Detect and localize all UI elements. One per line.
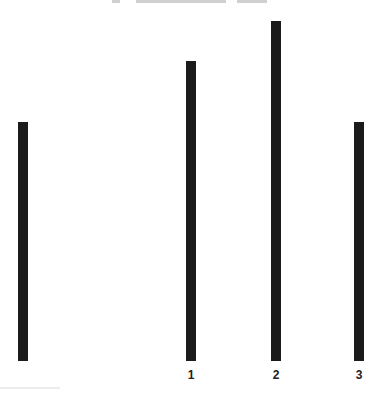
bar-1	[186, 61, 196, 361]
bar-3	[354, 122, 364, 361]
cropped-title-strip	[112, 0, 272, 4]
x-tick-label: 1	[181, 368, 201, 382]
x-tick-label: 3	[349, 368, 369, 382]
bottom-edge-shadow	[0, 387, 60, 389]
bar-2	[271, 21, 281, 361]
bar-unlabeled	[18, 122, 28, 361]
x-tick-label: 2	[266, 368, 286, 382]
